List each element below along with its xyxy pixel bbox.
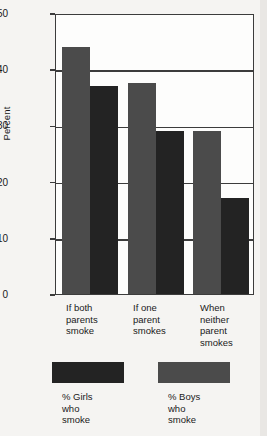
y-tick-label-0: 0 [0,290,8,300]
bar-girls [90,86,118,294]
bar-group [128,15,184,294]
y-tick-label-30: 30 [0,121,8,131]
x-category-label: If one parent smokes [133,302,166,337]
legend-label: % Boys who smoke [168,391,236,426]
y-tick-label-40: 40 [0,65,8,75]
bar-girls [221,198,249,294]
x-category-label: When neither parent smokes [200,302,233,348]
y-tick-label-10: 10 [0,234,8,244]
chart-page: Percent 01020304050 If both parents smok… [0,0,267,436]
legend-swatch-boys [158,362,230,383]
legend-label: % Girls who smoke [62,391,130,426]
bar-boys [193,131,221,294]
bar-group [62,15,118,294]
x-category-label: If both parents smoke [66,302,98,337]
legend-swatch-girls [52,362,124,383]
plot-area [55,14,254,295]
y-tick-label-50: 50 [0,9,8,19]
bar-boys [128,83,156,294]
legend-item: % Boys who smoke [158,362,236,426]
bar-boys [62,47,90,294]
bar-group [193,15,249,294]
paper-edge [260,0,267,436]
chart-legend: % Girls who smoke% Boys who smoke [52,362,252,426]
y-tick-label-20: 20 [0,178,8,188]
legend-item: % Girls who smoke [52,362,130,426]
bar-girls [156,131,184,294]
